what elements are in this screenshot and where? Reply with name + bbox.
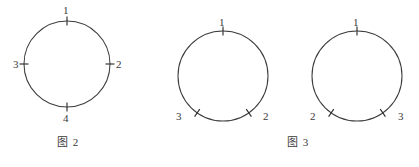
point-label-circle-a-4: 4 bbox=[63, 113, 69, 124]
point-label-circle-a-2: 2 bbox=[116, 59, 122, 70]
tick-mark-circle-c-3 bbox=[380, 109, 385, 116]
figure-caption-3: 图 3 bbox=[287, 136, 309, 148]
point-label-circle-a-3: 3 bbox=[13, 59, 19, 70]
tick-mark-circle-c-2 bbox=[329, 109, 334, 116]
point-label-circle-b-3: 3 bbox=[176, 111, 182, 122]
circle-outline-circle-b bbox=[178, 31, 268, 121]
point-label-circle-b-1: 1 bbox=[219, 17, 225, 28]
point-label-circle-b-2: 2 bbox=[263, 111, 269, 122]
point-label-circle-c-3: 3 bbox=[398, 111, 404, 122]
point-label-circle-c-1: 1 bbox=[353, 17, 359, 28]
tick-mark-circle-b-3 bbox=[195, 109, 200, 116]
circle-outline-circle-c bbox=[312, 31, 402, 121]
point-label-circle-c-2: 2 bbox=[310, 111, 316, 122]
point-label-circle-a-1: 1 bbox=[63, 5, 69, 16]
figure-caption-2: 图 2 bbox=[57, 136, 79, 148]
circle-outline-circle-a bbox=[24, 21, 110, 107]
figure-canvas: 1234123123 图 2 图 3 bbox=[0, 0, 419, 167]
tick-mark-circle-b-2 bbox=[246, 109, 251, 116]
